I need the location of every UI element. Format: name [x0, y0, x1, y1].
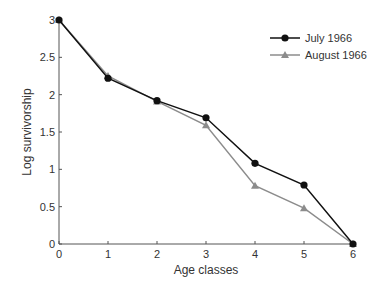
- x-tick-label: 3: [203, 248, 209, 260]
- triangle-marker: [202, 121, 210, 128]
- x-axis-label: Age classes: [174, 263, 239, 277]
- legend: July 1966August 1966: [270, 32, 367, 61]
- x-tick-label: 2: [154, 248, 160, 260]
- x-tick-label: 4: [252, 248, 258, 260]
- y-tick-label: 0.5: [40, 201, 55, 213]
- legend-label: July 1966: [305, 32, 352, 44]
- circle-marker: [281, 34, 288, 41]
- x-tick-label: 5: [301, 248, 307, 260]
- x-tick-label: 1: [105, 248, 111, 260]
- x-tick-label: 0: [56, 248, 62, 260]
- y-axis-label: Log survivorship: [20, 88, 34, 176]
- circle-marker: [349, 240, 356, 247]
- circle-marker: [202, 114, 209, 121]
- y-tick-label: 1: [49, 163, 55, 175]
- circle-marker: [300, 181, 307, 188]
- y-tick-label: 0: [49, 238, 55, 250]
- circle-marker: [55, 16, 62, 23]
- y-tick-label: 1.5: [40, 126, 55, 138]
- legend-item: August 1966: [270, 49, 367, 61]
- line-chart: 012345600.511.522.53 July 1966August 196…: [0, 0, 380, 287]
- circle-marker: [251, 160, 258, 167]
- x-tick-label: 6: [350, 248, 356, 260]
- circle-marker: [104, 75, 111, 82]
- y-tick-label: 2: [49, 89, 55, 101]
- y-tick-label: 2.5: [40, 51, 55, 63]
- circle-marker: [153, 97, 160, 104]
- legend-label: August 1966: [305, 49, 367, 61]
- y-tick-label: 3: [49, 14, 55, 26]
- legend-item: July 1966: [270, 32, 352, 44]
